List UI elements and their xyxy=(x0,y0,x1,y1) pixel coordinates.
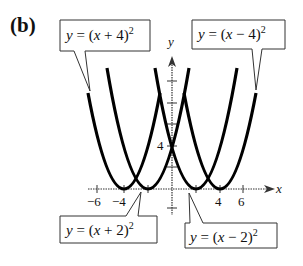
callout-top-right: y = (x − 4)2 xyxy=(198,24,266,43)
callout-bottom-right: y = (x − 2)2 xyxy=(190,227,258,246)
y-tick-label-4: 4 xyxy=(157,138,164,154)
curve-x-minus-4 xyxy=(184,93,256,189)
callout-top-left: y = (x + 4)2 xyxy=(66,25,134,44)
panel-label: (b) xyxy=(10,13,36,38)
x-tick-label-4: 4 xyxy=(215,194,222,210)
x-tick-label-6: 6 xyxy=(238,194,245,210)
y-axis-label: y xyxy=(168,34,174,50)
callout-bottom-left: y = (x + 2)2 xyxy=(66,220,134,239)
curve-x-plus-4 xyxy=(88,93,160,189)
x-axis-label: x xyxy=(276,181,282,197)
x-tick-label-neg4: −4 xyxy=(112,194,126,210)
x-tick-label-neg6: −6 xyxy=(87,194,101,210)
curve-x-plus-2 xyxy=(107,68,189,189)
curve-x-minus-2 xyxy=(155,68,237,189)
